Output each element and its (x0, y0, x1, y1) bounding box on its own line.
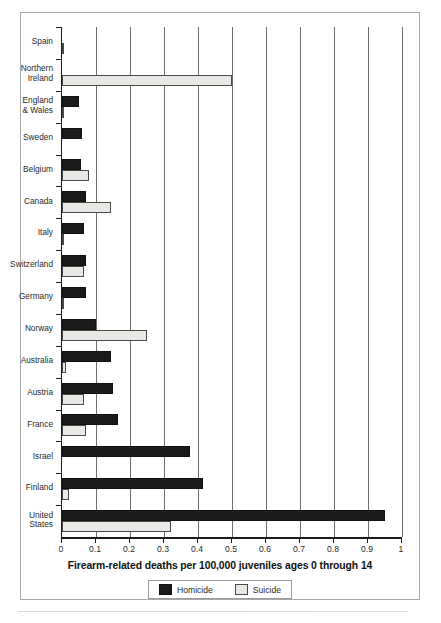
x-tick (129, 537, 130, 543)
x-tick-label: 0.8 (327, 544, 339, 554)
bar-homicide (62, 96, 79, 107)
category-label: England & Wales (0, 96, 53, 115)
category-tick (56, 250, 62, 251)
x-tick (367, 537, 368, 543)
bar-row: Belgium (62, 155, 402, 187)
category-tick (56, 91, 62, 92)
legend-item: Suicide (235, 584, 281, 595)
legend-swatch-homicide (159, 584, 172, 595)
bar-homicide (62, 319, 96, 330)
bar-suicide (62, 521, 171, 532)
category-label: Australia (0, 356, 53, 365)
category-label: Italy (0, 228, 53, 237)
x-tick (231, 537, 232, 543)
category-label: Sweden (0, 133, 53, 142)
bar-row: Northern Ireland (62, 59, 402, 91)
bar-homicide (62, 191, 86, 202)
category-tick (56, 186, 62, 187)
bar-row: England & Wales (62, 91, 402, 123)
category-tick (56, 218, 62, 219)
category-label: France (0, 420, 53, 429)
gridline (402, 27, 403, 537)
category-label: Finland (0, 483, 53, 492)
category-tick (56, 314, 62, 315)
category-tick (56, 378, 62, 379)
x-tick-label: 0.4 (191, 544, 203, 554)
bar-row: Italy (62, 218, 402, 250)
bar-homicide (62, 351, 111, 362)
x-tick-label: 0.9 (361, 544, 373, 554)
bar-suicide (62, 362, 66, 373)
bar-suicide (62, 75, 232, 86)
bar-homicide (62, 159, 81, 170)
category-label: Israel (0, 452, 53, 461)
x-tick (333, 537, 334, 543)
category-tick (56, 27, 62, 28)
x-tick (61, 537, 62, 543)
bar-rows: SpainNorthern IrelandEngland & WalesSwed… (62, 27, 402, 537)
bar-suicide (62, 394, 84, 405)
bar-row: Spain (62, 27, 402, 59)
x-axis-ticks (61, 537, 401, 543)
x-tick-label: 0.5 (225, 544, 237, 554)
category-label: Northern Ireland (0, 64, 53, 83)
category-tick (56, 473, 62, 474)
bar-suicide (62, 489, 69, 500)
x-tick (401, 537, 402, 543)
bar-suicide (62, 107, 64, 118)
plot-area: SpainNorthern IrelandEngland & WalesSwed… (61, 27, 402, 537)
bar-row: Norway (62, 314, 402, 346)
bar-homicide (62, 414, 118, 425)
category-tick (56, 59, 62, 60)
caption-rule (18, 611, 408, 612)
bar-suicide (62, 202, 111, 213)
x-axis-title: Firearm-related deaths per 100,000 juven… (21, 560, 419, 571)
bar-homicide (62, 446, 190, 457)
x-axis-tick-labels: 00.10.20.30.40.50.60.70.80.91 (61, 544, 401, 556)
bar-suicide (62, 298, 64, 309)
bar-homicide (62, 383, 113, 394)
x-tick-label: 1 (399, 544, 404, 554)
legend-item: Homicide (159, 584, 213, 595)
bar-homicide (62, 478, 203, 489)
category-tick (56, 282, 62, 283)
category-label: Spain (0, 37, 53, 46)
x-tick (197, 537, 198, 543)
bar-row: Germany (62, 282, 402, 314)
category-tick (56, 410, 62, 411)
bar-suicide (62, 170, 89, 181)
bar-suicide (62, 330, 147, 341)
category-label: Germany (0, 292, 53, 301)
bar-homicide (62, 255, 86, 266)
legend-label: Homicide (177, 585, 213, 595)
bar-suicide (62, 266, 84, 277)
category-label: Switzerland (0, 260, 53, 269)
bar-row: Canada (62, 186, 402, 218)
bar-homicide (62, 510, 385, 521)
x-tick-label: 0.2 (123, 544, 135, 554)
category-tick (56, 346, 62, 347)
category-label: Norway (0, 324, 53, 333)
x-tick-label: 0 (59, 544, 64, 554)
bar-row: France (62, 410, 402, 442)
category-tick (56, 505, 62, 506)
bar-homicide (62, 287, 86, 298)
bar-row: Switzerland (62, 250, 402, 282)
x-tick-label: 0.1 (89, 544, 101, 554)
x-tick-label: 0.6 (259, 544, 271, 554)
bar-suicide (62, 43, 64, 54)
x-tick-label: 0.7 (293, 544, 305, 554)
category-tick (56, 441, 62, 442)
category-label: Austria (0, 388, 53, 397)
category-label: Canada (0, 197, 53, 206)
bar-row: Austria (62, 378, 402, 410)
x-tick (265, 537, 266, 543)
x-tick-label: 0.3 (157, 544, 169, 554)
category-label: Belgium (0, 165, 53, 174)
bar-row: United States (62, 505, 402, 537)
figure-frame: SpainNorthern IrelandEngland & WalesSwed… (20, 12, 420, 600)
category-label: United States (0, 511, 53, 530)
bar-suicide (62, 234, 64, 245)
chart-legend: HomicideSuicide (148, 580, 292, 599)
legend-swatch-suicide (235, 584, 248, 595)
